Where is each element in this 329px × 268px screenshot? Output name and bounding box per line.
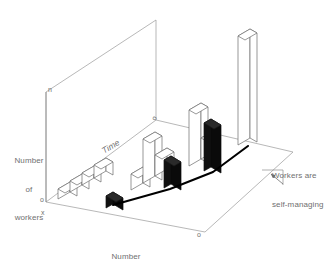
y-axis-label-line-2: of xyxy=(2,185,56,195)
y-axis-label-line-3: workers xyxy=(2,213,56,223)
bar-group-time-3 xyxy=(189,103,221,173)
bar-group-time-2 xyxy=(131,132,181,190)
annotation-line-1: Workers are xyxy=(272,171,329,181)
bar-time1-bin5-highlight xyxy=(106,192,123,210)
bar-group-time-1 xyxy=(58,158,123,210)
bar-group-time-4 xyxy=(238,29,257,145)
bar-time4-bin1 xyxy=(238,29,257,145)
y-axis-tick-top: n xyxy=(48,86,52,93)
chart-figure: Number of workers Number of defects Time… xyxy=(0,0,329,268)
annotation-label: Workers are self-managing xyxy=(272,152,329,228)
x-axis-tick-end: o xyxy=(197,231,201,238)
x-axis-tick-origin: x xyxy=(41,209,45,216)
bar-time1-bin4 xyxy=(94,158,113,178)
x-axis-label-line-1: Number xyxy=(95,252,157,262)
bar-time3-bin3-highlight xyxy=(204,119,221,173)
x-axis-label: Number of defects xyxy=(95,233,157,268)
y-axis-label-line-1: Number xyxy=(2,156,56,166)
y-axis-tick-origin: o xyxy=(40,196,44,203)
annotation-line-2: self-managing xyxy=(272,200,329,210)
y-axis-label: Number of workers xyxy=(2,137,56,242)
